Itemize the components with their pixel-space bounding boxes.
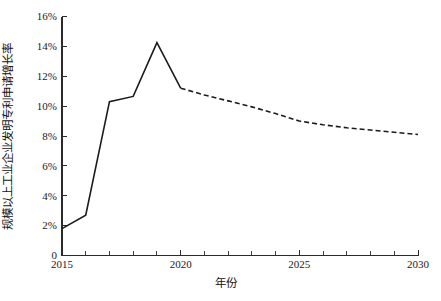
chart-page: 02%4%6%8%10%12%14%16% 2015202020252030 年… [0,0,441,301]
x-axis-ticks [62,250,418,256]
y-tick-label: 6% [42,160,57,172]
y-tick-label: 10% [37,100,57,112]
x-tick-label: 2020 [170,258,193,270]
x-axis-title: 年份 [215,276,238,289]
y-axis-tick-labels: 02%4%6%8%10%12%14%16% [37,10,58,261]
y-tick-label: 2% [42,219,57,231]
y-axis-group: 02%4%6%8%10%12%14%16% [37,10,67,261]
y-tick-label: 4% [42,190,57,202]
x-tick-label: 2025 [288,258,311,270]
series-historical-line [62,43,181,229]
x-tick-label: 2015 [51,258,74,270]
series-group [62,43,418,229]
x-axis-group: 2015202020252030 [51,250,430,271]
line-chart-figure: 02%4%6%8%10%12%14%16% 2015202020252030 年… [0,0,441,301]
y-tick-label: 12% [37,70,57,82]
series-forecast-line [181,88,418,134]
y-tick-label: 16% [37,10,57,22]
chart-canvas: 02%4%6%8%10%12%14%16% 2015202020252030 年… [0,0,441,301]
x-axis-tick-labels: 2015202020252030 [51,258,430,270]
y-tick-label: 8% [42,130,57,142]
y-axis-ticks [62,17,67,256]
x-tick-label: 2030 [407,258,430,270]
y-tick-label: 14% [37,40,57,52]
y-axis-title: 规模以上工业企业发明专利申请增长率 [1,43,14,230]
